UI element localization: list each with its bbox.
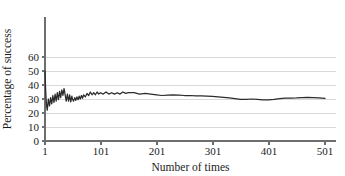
- x-tick-label: 101: [93, 145, 110, 157]
- axis-lines: [45, 17, 336, 141]
- chart-figure: 0102030405060 1101201301401501 Number of…: [0, 0, 345, 176]
- x-axis-ticks: 1101201301401501: [42, 141, 333, 157]
- series-percentage-of-success: [45, 71, 325, 110]
- y-tick-label: 30: [28, 93, 40, 105]
- x-axis-title: Number of times: [152, 161, 230, 173]
- y-axis-title: Percentage of success: [1, 28, 14, 129]
- x-tick-label: 201: [149, 145, 166, 157]
- line-chart: 0102030405060 1101201301401501 Number of…: [0, 0, 345, 176]
- y-tick-label: 0: [34, 135, 40, 147]
- y-axis-ticks: 0102030405060: [28, 51, 45, 147]
- x-tick-label: 1: [42, 145, 48, 157]
- y-tick-label: 50: [28, 65, 40, 77]
- data-series-line: [45, 71, 325, 110]
- x-tick-label: 501: [317, 145, 334, 157]
- y-tick-label: 60: [28, 51, 40, 63]
- gridlines: [45, 57, 336, 141]
- y-tick-label: 20: [28, 107, 40, 119]
- x-tick-label: 301: [205, 145, 222, 157]
- y-tick-label: 10: [28, 121, 40, 133]
- x-tick-label: 401: [261, 145, 278, 157]
- y-tick-label: 40: [28, 79, 40, 91]
